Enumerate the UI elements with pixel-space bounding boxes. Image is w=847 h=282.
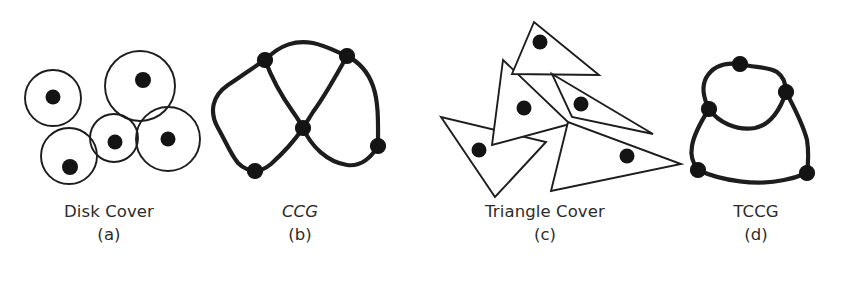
graph-edge — [255, 128, 303, 171]
panel-caption-b: CCG (b) — [205, 200, 395, 247]
graph-node — [248, 164, 263, 179]
panel-caption-c: Triangle Cover (c) — [420, 200, 670, 247]
point-dot — [533, 35, 548, 50]
panel-title-a: Disk Cover — [0, 200, 218, 223]
graph-edge — [303, 56, 347, 128]
panel-title-c: Triangle Cover — [420, 200, 670, 223]
graph-node — [779, 85, 794, 100]
graph-edge — [265, 42, 347, 60]
graph-edge — [698, 170, 807, 183]
point-dot — [62, 159, 78, 175]
point-dot — [472, 143, 487, 158]
graph-edge — [786, 92, 808, 173]
panel-d-tccg — [691, 57, 815, 183]
graph-node — [691, 163, 706, 178]
panel-index-b: (b) — [205, 223, 395, 246]
panel-index-a: (a) — [0, 223, 218, 246]
point-dot — [108, 135, 123, 150]
graph-node — [702, 102, 717, 117]
point-dot — [574, 97, 589, 112]
panel-index-c: (c) — [420, 223, 670, 246]
graph-node — [371, 139, 386, 154]
point-dot — [161, 132, 176, 147]
point-dot — [46, 90, 61, 105]
graph-edge — [691, 109, 709, 170]
panel-c-triangle-cover — [441, 22, 681, 197]
point-dot — [517, 101, 532, 116]
triangle-outline — [551, 122, 681, 191]
graph-edge — [709, 92, 786, 129]
panel-caption-a: Disk Cover (a) — [0, 200, 218, 247]
panel-caption-d: TCCG (d) — [665, 200, 847, 247]
graph-node — [800, 166, 815, 181]
graph-node — [340, 49, 355, 64]
graph-edge — [303, 128, 378, 165]
panel-a-disk-cover — [25, 51, 200, 184]
triangle-outline — [512, 22, 599, 75]
point-dot — [620, 149, 635, 164]
panel-index-d: (d) — [665, 223, 847, 246]
panel-b-ccg — [213, 42, 386, 178]
disk-outline — [41, 128, 97, 184]
graph-node — [296, 121, 311, 136]
point-dot — [135, 72, 151, 88]
graph-edge — [347, 56, 378, 146]
panel-title-d: TCCG — [665, 200, 847, 223]
graph-edge — [213, 60, 265, 171]
graph-edge — [265, 60, 303, 128]
panel-title-b: CCG — [205, 200, 395, 223]
graph-node — [258, 53, 273, 68]
figure-canvas: Disk Cover (a) CCG (b) Triangle Cover (c… — [0, 0, 847, 282]
graph-node — [733, 57, 748, 72]
